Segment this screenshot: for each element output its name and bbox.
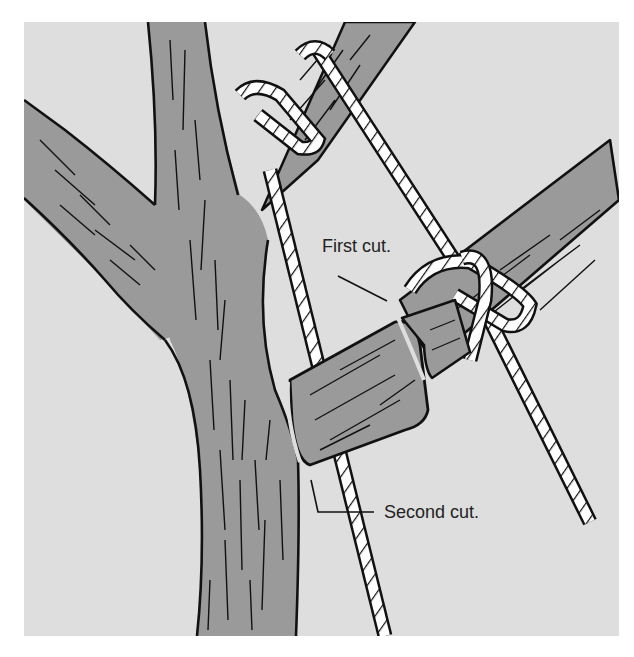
tree-illustration	[0, 0, 634, 657]
first-cut-label: First cut.	[322, 236, 391, 257]
right-margin	[619, 0, 634, 657]
second-cut-label: Second cut.	[384, 502, 479, 523]
